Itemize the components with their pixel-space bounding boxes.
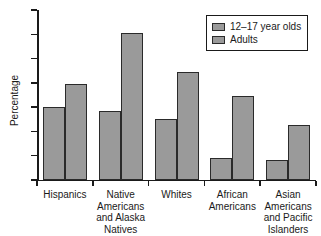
x-axis-group-label-line: Native <box>89 189 153 201</box>
x-axis-group-label-line: and Alaska <box>89 212 153 224</box>
y-axis-tick <box>31 106 37 108</box>
x-axis-group-label-line: and Pacific <box>256 212 320 224</box>
x-axis-group-label: Whites <box>145 189 209 201</box>
bar <box>232 96 254 180</box>
x-axis-group-label-line: Natives <box>89 224 153 236</box>
bar <box>177 72 199 180</box>
x-axis-group-label-line: African <box>200 189 264 201</box>
bar-chart-figure: Percentage 02468101214 HispanicsNativeAm… <box>0 0 321 236</box>
y-axis-line <box>37 10 39 181</box>
bar <box>65 84 87 180</box>
bar <box>288 125 310 180</box>
x-axis-group-label: AfricanAmericans <box>200 189 264 212</box>
legend-item-12-17-year-olds: 12–17 year olds <box>212 20 301 33</box>
y-axis-label: Percentage <box>9 56 20 146</box>
x-axis-group-label-line: Whites <box>145 189 209 201</box>
x-axis-tick <box>259 181 261 186</box>
x-axis-group-label-line: Americans <box>200 201 264 213</box>
bar <box>43 107 65 180</box>
x-axis-tick <box>148 181 150 186</box>
legend-item-label: Adults <box>230 34 258 45</box>
x-axis-tick <box>92 181 94 186</box>
legend-item-label: 12–17 year olds <box>230 21 301 32</box>
bar <box>266 160 288 180</box>
x-axis-group-label-line: Islanders <box>256 224 320 236</box>
x-axis-group-label-line: Hispanics <box>33 189 97 201</box>
x-axis-group-label: AsianAmericansand PacificIslanders <box>256 189 320 235</box>
bar <box>155 119 177 180</box>
x-axis-group-label: NativeAmericansand AlaskaNatives <box>89 189 153 235</box>
y-axis-tick <box>31 9 37 11</box>
y-axis-tick <box>31 34 37 36</box>
bar <box>121 33 143 180</box>
chart-legend: 12–17 year olds Adults <box>206 15 308 51</box>
y-axis-tick <box>31 155 37 157</box>
y-axis-tick <box>31 82 37 84</box>
x-axis-group-label-line: Americans <box>89 201 153 213</box>
x-axis-group-label: Hispanics <box>33 189 97 201</box>
bar <box>99 111 121 180</box>
bar <box>210 158 232 180</box>
y-axis-tick <box>31 131 37 133</box>
x-axis-group-label-line: Americans <box>256 201 320 213</box>
x-axis-group-label-line: Asian <box>256 189 320 201</box>
legend-swatch-icon <box>212 36 225 44</box>
x-axis-tick <box>315 181 317 186</box>
x-axis-tick <box>36 181 38 186</box>
legend-item-adults: Adults <box>212 33 301 46</box>
y-axis-tick <box>31 58 37 60</box>
x-axis-tick <box>204 181 206 186</box>
legend-swatch-icon <box>212 23 225 31</box>
